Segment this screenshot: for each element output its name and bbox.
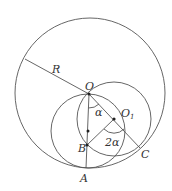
- point-o1: [112, 117, 115, 120]
- label-o1: O1: [121, 107, 135, 121]
- label-c: C: [141, 148, 150, 161]
- point-center-left: [87, 130, 90, 133]
- angle-arc-2alpha: [104, 129, 124, 133]
- label-r: R: [51, 63, 60, 76]
- geometry-diagram: R O O1 α 2α B A C: [0, 0, 172, 191]
- label-2alpha: 2α: [104, 136, 120, 149]
- label-o: O: [85, 80, 94, 93]
- label-alpha: α: [95, 106, 103, 119]
- label-a: A: [79, 172, 88, 185]
- label-b: B: [77, 142, 86, 155]
